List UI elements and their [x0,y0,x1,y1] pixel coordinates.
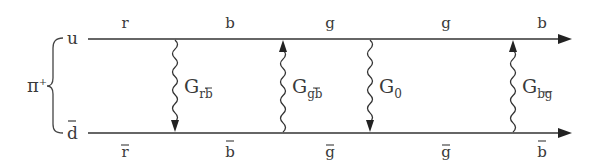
bottom-color-label: r [121,143,129,161]
gluon-0: Grb [171,40,213,132]
svg-text:b: b [225,143,235,161]
gluon-arrow-up-icon [279,40,287,52]
gluon-2: G0 [366,40,402,132]
top-color-label: g [325,14,335,32]
bottom-color-label: b [537,141,547,161]
feynman-diagram: π+ u d rbggb rbggb GrbGgbG0Gbg [0,0,598,165]
gluon-label: G0 [379,75,402,101]
svg-text:d: d [67,123,78,143]
bottom-color-label: b [225,141,235,161]
gluon-wave [173,40,178,122]
top-arrow-icon [558,34,572,44]
gluon-arrow-down-icon [366,120,374,132]
gluon-wave [368,40,373,122]
gluon-wave [281,50,286,132]
bottom-color-label: g [441,143,451,161]
gluon-3: Gbg [509,40,553,132]
brace [47,38,63,133]
meson-label: π+ [27,75,47,96]
quark-bottom-label: d [67,121,78,143]
gluon-label: Gbg [522,75,553,101]
svg-text:g: g [441,143,451,161]
gluon-wave [511,50,516,132]
gluon-arrow-down-icon [171,120,179,132]
top-color-label: b [537,14,547,32]
bottom-arrow-icon [558,128,572,138]
gluon-1: Ggb [279,40,323,132]
gluon-arrow-up-icon [509,40,517,52]
svg-text:g: g [325,143,335,161]
top-color-label: g [441,14,451,32]
quark-top-label: u [67,28,78,48]
bottom-color-label: g [325,143,335,161]
svg-text:b: b [537,143,547,161]
svg-text:r: r [121,143,129,161]
top-color-label: b [225,14,235,32]
top-color-label: r [121,14,129,32]
